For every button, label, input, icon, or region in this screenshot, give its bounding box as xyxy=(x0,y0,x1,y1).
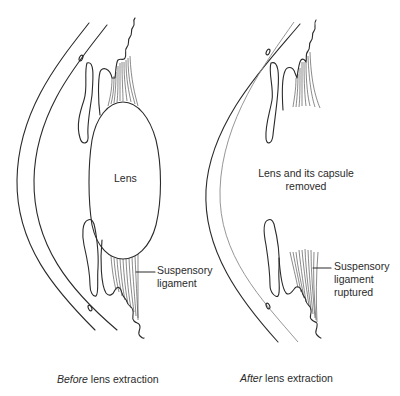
iris-upper-after xyxy=(266,63,279,143)
ciliary-upper xyxy=(99,18,136,115)
removed-label-line2: removed xyxy=(251,180,361,193)
cornea-outer xyxy=(17,23,95,330)
caption-before-rest: lens extraction xyxy=(88,373,159,385)
canal-lower-after xyxy=(265,303,270,310)
ligament-label-line1: Suspensory xyxy=(157,264,212,277)
caption-after-rest: lens extraction xyxy=(262,372,333,384)
ruptured-label-line2: ligament xyxy=(334,273,389,286)
ligament-fibres-lower-after xyxy=(290,249,318,322)
iris-lower-after xyxy=(264,219,279,296)
ruptured-label-line1: Suspensory xyxy=(334,260,389,273)
lens-removed-label: Lens and its capsule removed xyxy=(251,167,361,193)
ciliary-lower-after xyxy=(279,258,321,338)
eye-diagram xyxy=(0,0,400,396)
ruptured-label-line3: ruptured xyxy=(334,286,389,299)
canal-lower xyxy=(87,305,92,312)
before-panel xyxy=(17,18,161,338)
canal-upper-after xyxy=(265,49,270,56)
iris-upper xyxy=(78,63,93,143)
cornea-inner xyxy=(34,25,117,330)
suspensory-ligament-label-before: Suspensory ligament xyxy=(157,264,212,290)
canal-upper xyxy=(78,55,83,62)
ligament-label-line2: ligament xyxy=(157,277,212,290)
caption-after-emphasis: After xyxy=(240,372,262,384)
caption-before: Before lens extraction xyxy=(57,373,159,385)
caption-before-emphasis: Before xyxy=(57,373,88,385)
iris-lower xyxy=(83,219,98,296)
lens-label: Lens xyxy=(114,172,137,185)
suspensory-ligament-ruptured-label: Suspensory ligament ruptured xyxy=(334,260,389,299)
ligament-fibres-upper xyxy=(108,56,138,106)
caption-after: After lens extraction xyxy=(240,372,333,384)
removed-label-line1: Lens and its capsule xyxy=(251,167,361,180)
ligament-fibres-lower xyxy=(111,254,138,320)
